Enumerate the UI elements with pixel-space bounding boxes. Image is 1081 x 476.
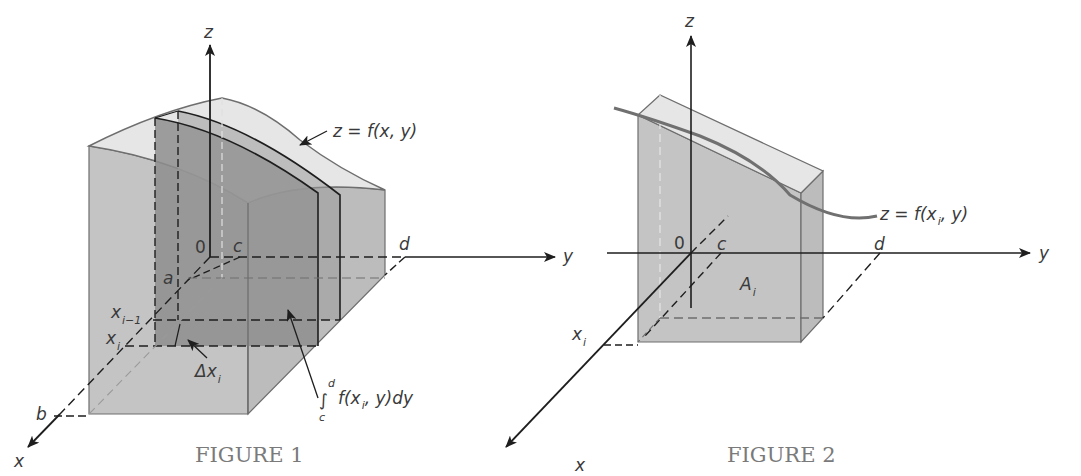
slab-back-face	[178, 111, 340, 320]
integral-label: ∫ d c f(xi, y)dy	[319, 377, 414, 424]
d-label: d	[399, 234, 410, 254]
svg-text:f(xi, y)dy: f(xi, y)dy	[338, 388, 414, 412]
svg-text:c: c	[319, 411, 325, 424]
y-axis-label: y	[562, 246, 574, 266]
y-axis-label: y	[1038, 243, 1050, 263]
surface-label: z = f(x, y)	[332, 121, 417, 141]
svg-text:d: d	[328, 377, 336, 390]
d-label: d	[874, 234, 885, 254]
svg-text:∫: ∫	[319, 390, 328, 410]
curve-label: z = f(xi, y)	[879, 204, 968, 228]
x-i-label: xi	[571, 324, 586, 349]
figure-2-caption: FIGURE 2	[727, 443, 836, 467]
slab-side-face	[801, 171, 823, 342]
z-axis-label: z	[684, 11, 695, 31]
z-axis-label: z	[203, 22, 214, 42]
x-axis-label: x	[574, 455, 586, 475]
figure-1-caption: FIGURE 1	[195, 443, 304, 467]
figure-2: z y x 0 c d xi Ai z = f(xi, y) FIGURE 2	[506, 11, 1050, 475]
figure-canvas: z y x 0 c d a b xi−1 xi Δxi z = f(x, y) …	[0, 0, 1081, 476]
x-axis-fig2	[506, 253, 691, 447]
x-axis-label: x	[13, 451, 25, 471]
origin-label: 0	[674, 233, 685, 253]
c-label: c	[717, 234, 727, 254]
c-label: c	[233, 236, 243, 256]
figure-1: z y x 0 c d a b xi−1 xi Δxi z = f(x, y) …	[13, 22, 574, 471]
origin-label: 0	[195, 237, 206, 257]
a-label: a	[163, 268, 173, 288]
b-label: b	[36, 404, 47, 424]
